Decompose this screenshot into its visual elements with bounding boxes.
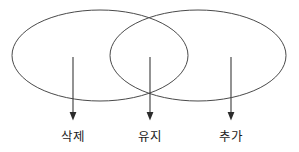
pointer-intersection xyxy=(147,57,154,121)
venn-diagram-canvas: 삭제 유지 추가 xyxy=(0,0,299,152)
right-set-ellipse xyxy=(110,10,286,101)
region-label-intersection: 유지 xyxy=(138,129,162,144)
region-label-left-only: 삭제 xyxy=(61,129,85,144)
arrowhead-icon-intersection xyxy=(147,112,154,121)
pointer-right-only xyxy=(228,57,235,121)
arrowhead-icon-left-only xyxy=(70,112,77,121)
pointer-left-only xyxy=(70,57,77,121)
arrowhead-icon-right-only xyxy=(228,112,235,121)
region-label-right-only: 추가 xyxy=(219,129,243,144)
venn-diagram: 삭제 유지 추가 xyxy=(0,0,299,152)
left-set-ellipse xyxy=(12,10,188,101)
